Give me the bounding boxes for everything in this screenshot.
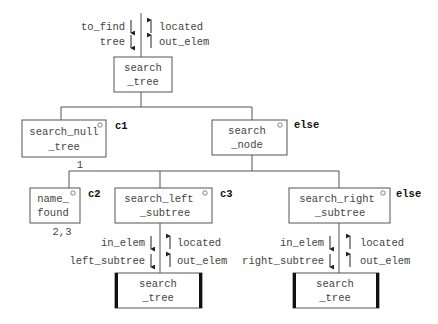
structure-chart: to_find tree located out_elem search _tr… <box>0 0 438 324</box>
param-in: tree <box>100 36 125 48</box>
module-name-found[interactable]: name_ found <box>30 188 80 223</box>
param-out: located <box>360 237 404 249</box>
right-subtree-interface: in_elem right_subtree located out_elem <box>242 223 410 273</box>
module-search-tree-recursive-right[interactable]: search _tree <box>293 273 379 308</box>
module-label: search_null <box>29 126 98 138</box>
condition-label: c1 <box>115 120 128 132</box>
condition-label: c3 <box>220 188 233 200</box>
param-out: out_elem <box>177 255 227 267</box>
module-search-null-tree[interactable]: search_null _tree <box>22 120 106 157</box>
module-label: _tree <box>47 141 80 153</box>
module-label: search <box>124 62 162 74</box>
module-search-right-subtree[interactable]: search_right _subtree <box>289 188 390 223</box>
condition-label: else <box>396 188 421 200</box>
module-label: _tree <box>126 76 159 88</box>
root-interface: to_find tree located out_elem <box>81 13 210 57</box>
module-label: _subtree <box>314 207 365 219</box>
param-out: located <box>159 21 203 33</box>
param-out: out_elem <box>159 36 209 48</box>
param-out: located <box>177 237 221 249</box>
param-in: in_elem <box>280 237 324 249</box>
condition-label: c2 <box>88 188 101 200</box>
module-search-left-subtree[interactable]: search_left _subtree <box>115 188 212 223</box>
module-label: name_ <box>37 193 69 205</box>
module-label: search <box>316 278 354 290</box>
left-subtree-interface: in_elem left_subtree located out_elem <box>69 223 227 273</box>
module-search-node[interactable]: search _node <box>212 120 287 155</box>
param-out: out_elem <box>360 255 410 267</box>
note-label: 1 <box>77 159 83 171</box>
module-search-tree[interactable]: search _tree <box>114 57 172 92</box>
param-in: right_subtree <box>242 255 324 267</box>
param-in: left_subtree <box>69 255 145 267</box>
module-label: _tree <box>141 292 174 304</box>
module-label: found <box>37 207 69 219</box>
module-label: _node <box>230 139 263 151</box>
module-search-tree-recursive-left[interactable]: search _tree <box>115 273 202 308</box>
note-label: 2,3 <box>53 226 72 238</box>
module-label: _tree <box>318 292 351 304</box>
module-label: search <box>139 278 177 290</box>
param-in: in_elem <box>101 237 145 249</box>
condition-label: else <box>294 119 319 131</box>
connectors-level2 <box>69 155 339 188</box>
module-label: search_left <box>124 193 193 205</box>
module-label: search <box>228 125 266 137</box>
connectors-level1 <box>61 92 252 120</box>
param-in: to_find <box>81 21 125 33</box>
module-label: search_right <box>299 193 375 205</box>
module-label: _subtree <box>139 207 190 219</box>
